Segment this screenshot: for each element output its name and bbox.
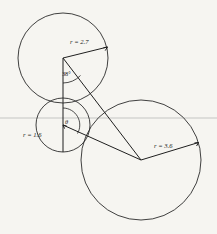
top-circle-radius-label: r = 2.7 — [70, 38, 89, 45]
center-angle-label: θ — [65, 118, 68, 125]
large-circle-radius-label: r = 3.6 — [154, 142, 173, 149]
small-circle-radius-label: r = 1.6 — [23, 131, 42, 138]
large-radius-arrowhead — [194, 143, 198, 147]
top-to-large-center-line — [63, 58, 141, 160]
figure-canvas: r = 2.7 38° θ r = 1.6 r = 3.6 — [0, 0, 217, 234]
top-angle-label: 38° — [62, 70, 71, 77]
geometry-figure: r = 2.7 38° θ r = 1.6 r = 3.6 — [0, 0, 217, 234]
small-to-large-center-line — [63, 125, 141, 160]
top-circle-radius-line — [63, 47, 108, 58]
